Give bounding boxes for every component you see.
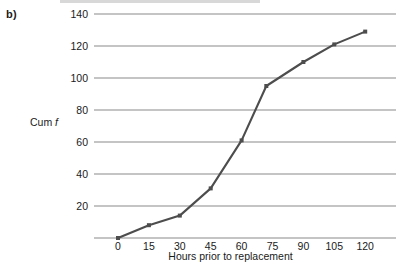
y-tick-label: 140 xyxy=(70,8,88,20)
data-point-marker xyxy=(209,186,213,190)
chart-plot-area: 20406080100120140 0153045607590105120 xyxy=(0,0,401,267)
data-series-line xyxy=(118,32,365,238)
data-point-marker xyxy=(363,30,367,34)
x-tick-label: 120 xyxy=(356,240,374,252)
x-tick-label: 15 xyxy=(143,240,155,252)
y-tick-label: 100 xyxy=(70,72,88,84)
x-tick-label: 105 xyxy=(326,240,344,252)
data-point-marker xyxy=(240,138,244,142)
y-tick-label: 120 xyxy=(70,40,88,52)
x-tick-label: 60 xyxy=(236,240,248,252)
x-tick-label: 90 xyxy=(298,240,310,252)
data-point-marker xyxy=(178,214,182,218)
x-tick-labels-group: 0153045607590105120 xyxy=(115,240,374,252)
data-series-group xyxy=(118,32,365,238)
x-tick-label: 0 xyxy=(115,240,121,252)
data-point-marker xyxy=(332,42,336,46)
x-tick-label: 75 xyxy=(267,240,279,252)
data-point-marker xyxy=(301,60,305,64)
gridlines-group xyxy=(94,14,396,206)
data-point-marker xyxy=(264,84,268,88)
data-point-marker xyxy=(116,236,120,240)
x-tick-label: 30 xyxy=(174,240,186,252)
data-point-marker xyxy=(147,223,151,227)
y-tick-label: 40 xyxy=(76,168,88,180)
y-tick-label: 20 xyxy=(76,200,88,212)
y-tick-label: 80 xyxy=(76,104,88,116)
y-tick-label: 60 xyxy=(76,136,88,148)
figure-panel: b) Cum f Hours prior to replacement 2040… xyxy=(0,0,401,267)
y-tick-labels-group: 20406080100120140 xyxy=(70,8,88,212)
x-tick-label: 45 xyxy=(205,240,217,252)
data-markers-group xyxy=(116,30,367,240)
